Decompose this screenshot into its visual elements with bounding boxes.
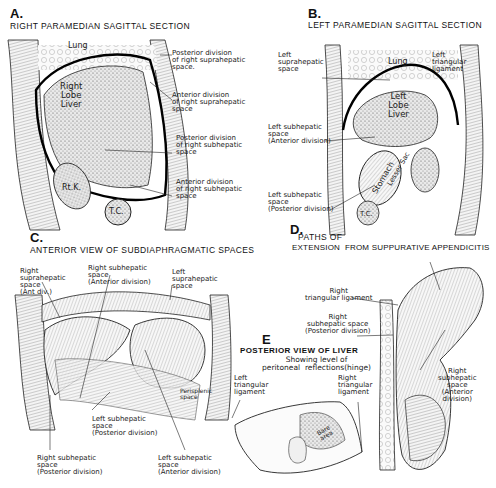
- panel-b-lung-label: Lung: [388, 58, 408, 66]
- panel-c-label-left-suprahepatic: Left suprahepatic space: [172, 269, 218, 290]
- panel-a-label-ant-right-subhepatic: Anterior division of right subhepatic sp…: [176, 179, 242, 200]
- panel-c-label-right-suprahepatic-ant: Right suprahepatic space (Ant div.): [20, 268, 66, 296]
- panel-c-label-left-subhepatic-post: Left subhepatic space (Posterior divisio…: [92, 416, 157, 437]
- panel-a-kidney-label: Rt.K.: [62, 184, 81, 192]
- panel-c-title: ANTERIOR VIEW OF SUBDIAPHRAGMATIC SPACES: [30, 245, 254, 255]
- panel-d-label-right-subhepatic-ant: Right subhepatic space (Anterior divisio…: [438, 368, 477, 403]
- panel-b-colon-label: T.C.: [360, 210, 373, 218]
- panel-b-title: LEFT PARAMEDIAN SAGITTAL SECTION: [308, 20, 482, 30]
- panel-b-label-left-triangular-ligament: Left triangular ligament: [432, 52, 466, 73]
- panel-a-label-post-right-suprahepatic: Posterior division of right suprahepatic…: [172, 50, 245, 71]
- panel-e-label-right-triangular-ligament: Right triangular ligament: [338, 375, 372, 396]
- panel-e-letter: E: [262, 332, 271, 347]
- panel-a-colon-label: T.C.: [109, 208, 124, 216]
- panel-c-label-right-subhepatic-ant: Right subhepatic space (Anterior divisio…: [88, 265, 151, 286]
- panel-d-label-right-subhepatic-post: Right subhepatic space (Posterior divisi…: [305, 314, 370, 335]
- panel-e-subtitle: Showing level of peritoneal reflections(…: [262, 356, 371, 372]
- panel-e-drawing: [232, 400, 362, 473]
- panel-b-label-left-suprahepatic: Left suprahepatic space: [278, 52, 324, 73]
- panel-b-liver-label: Left Lobe Liver: [388, 92, 409, 119]
- panel-a-label-ant-right-suprahepatic: Anterior division of right suprahepatic …: [172, 92, 245, 113]
- panel-a-letter: A.: [10, 6, 23, 21]
- panel-e-title: POSTERIOR VIEW OF LIVER: [240, 346, 358, 355]
- panel-a-lung-label: Lung: [68, 42, 88, 50]
- panel-b-label-left-subhepatic-post: Left subhepatic space (Posterior divisio…: [268, 192, 333, 213]
- panel-c-label-left-subhepatic-ant: Left subhepatic space (Anterior division…: [158, 455, 221, 476]
- panel-a-title: RIGHT PARAMEDIAN SAGITTAL SECTION: [10, 21, 190, 31]
- panel-a-liver-label: Right Lobe Liver: [60, 82, 82, 109]
- panel-c-label-right-subhepatic-post: Right subhepatic space (Posterior divisi…: [37, 455, 102, 476]
- panel-c-letter: C.: [30, 230, 43, 245]
- panel-b-label-left-subhepatic-ant: Left subhepatic space (Anterior division…: [268, 124, 331, 145]
- panel-d-title-line2: EXTENSION FROM SUPPURATIVE APPENDICITIS: [292, 243, 490, 252]
- panel-c-label-perisplenic: Perisplenic space: [180, 388, 212, 400]
- panel-e-label-left-triangular-ligament: Left triangular ligament: [234, 375, 268, 396]
- panel-b-drawing: [322, 45, 483, 235]
- panel-a-drawing: [8, 40, 188, 230]
- panel-b-letter: B.: [308, 6, 321, 21]
- panel-a-label-post-right-subhepatic: Posterior division of right subhepatic s…: [176, 135, 242, 156]
- panel-d-title-line1: PATHS OF: [298, 232, 342, 242]
- panel-d-label-right-triangular-ligament: Right triangular ligament: [305, 288, 372, 302]
